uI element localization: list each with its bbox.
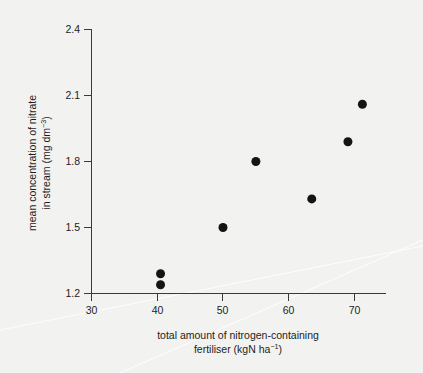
y-axis-title-line2: in stream (mg dm−3) [39, 116, 52, 209]
data-point [358, 100, 367, 109]
x-axis-title-line2: fertiliser (kgN ha−1) [194, 342, 282, 355]
y-tick-label: 2.4 [65, 23, 80, 35]
x-axis-title-line1: total amount of nitrogen-containing [157, 329, 319, 341]
x-tick-label: 70 [349, 304, 361, 316]
x-tick-label: 60 [283, 304, 295, 316]
y-tick-label: 1.8 [65, 155, 80, 167]
scatter-plot-figure: 1.2 1.5 1.8 2.1 2.4 30 40 50 60 70 total… [0, 0, 423, 373]
y-tick-label: 2.1 [65, 89, 80, 101]
plot-canvas: 1.2 1.5 1.8 2.1 2.4 30 40 50 60 70 total… [0, 0, 423, 373]
data-point [219, 223, 228, 232]
x-tick-label: 50 [217, 304, 229, 316]
x-axis-title-line2-suffix: ) [279, 343, 283, 355]
data-point [156, 280, 165, 289]
x-tick-label: 30 [86, 304, 98, 316]
data-point [343, 137, 352, 146]
data-point [307, 194, 316, 203]
data-point [251, 157, 260, 166]
y-axis-title-line2-prefix: in stream (mg dm [40, 128, 52, 210]
x-axis-title-line2-prefix: fertiliser (kgN ha [194, 343, 271, 355]
y-axis-title-line1: mean concentration of nitrate [26, 95, 38, 231]
data-point [156, 269, 165, 278]
y-axis-title-line2-suffix: ) [40, 116, 52, 120]
y-tick-label: 1.2 [65, 287, 80, 299]
x-tick-label: 40 [152, 304, 164, 316]
y-tick-label: 1.5 [65, 221, 80, 233]
y-axis-title-line2-sup: −3 [39, 120, 48, 128]
x-axis-title-line2-sup: −1 [270, 342, 278, 351]
